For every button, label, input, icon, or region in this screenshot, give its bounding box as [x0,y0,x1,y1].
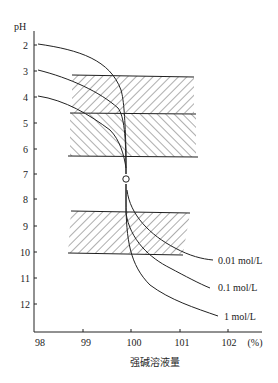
y-tick: 11 [20,273,30,284]
y-tick: 12 [20,299,30,310]
series-label-0.1: 0.1 mol/L [218,282,257,293]
y-tick: 4 [23,92,28,103]
y-tick: 3 [23,66,28,77]
y-tick: 5 [23,118,28,129]
y-axis-label: pH [14,21,26,32]
y-tick: 10 [20,247,30,258]
equivalence-point-marker [123,176,129,182]
x-axis [34,329,262,332]
series-label-1: 1 mol/L [224,311,256,322]
x-tick: 102 [222,337,237,348]
indicator-band-lower [68,211,190,255]
x-tick: 100 [127,337,142,348]
x-unit: (%) [248,337,263,349]
x-tick: 98 [35,337,45,348]
y-tick: 2 [23,40,28,51]
y-axis [34,31,37,332]
x-tick: 101 [175,337,190,348]
y-tick: 7 [23,169,28,180]
indicator-band-middle [68,113,198,157]
y-tick: 9 [23,221,28,232]
y-tick: 8 [23,194,28,205]
series-label-0.01: 0.01 mol/L [218,255,262,266]
x-tick: 99 [81,337,91,348]
indicator-band-upper [72,75,194,113]
y-tick: 6 [23,144,28,155]
x-axis-title: 强碱溶液量 [130,356,180,368]
titration-chart: pH 2 3 4 5 6 7 8 9 10 11 12 98 99 100 10… [0,0,278,383]
